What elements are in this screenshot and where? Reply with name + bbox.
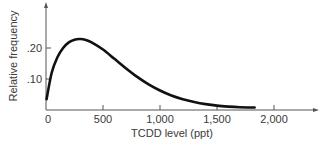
y-tick-label: .20	[27, 42, 42, 54]
y-axis-arrow-icon	[44, 2, 48, 8]
x-tick-label: 500	[94, 113, 112, 125]
y-tick-label: .10	[27, 73, 42, 85]
chart: 05001,0001,5002,000 .10.20 TCDD level (p…	[0, 0, 326, 147]
frequency-curve	[47, 39, 255, 108]
y-axis-label: Relative frequency	[7, 10, 19, 102]
y-ticks: .10.20	[27, 42, 51, 85]
axes	[44, 2, 319, 112]
x-tick-label: 2,000	[260, 113, 288, 125]
x-axis-arrow-icon	[313, 108, 319, 112]
x-tick-label: 1,000	[146, 113, 174, 125]
x-tick-label: 0	[45, 113, 51, 125]
x-tick-label: 1,500	[203, 113, 231, 125]
x-axis-label: TCDD level (ppt)	[131, 127, 213, 139]
